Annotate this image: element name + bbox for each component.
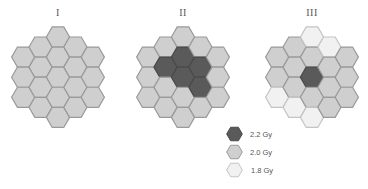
legend-swatch-icon xyxy=(227,145,243,159)
panel-ii xyxy=(137,27,230,128)
legend-swatch-icon xyxy=(227,127,243,141)
hex-cell xyxy=(81,67,104,87)
hex-cell xyxy=(206,87,229,107)
hex-cell xyxy=(335,87,358,107)
legend-label-1-8gy: 1.8 Gy xyxy=(251,166,273,175)
panel-title-iii: III xyxy=(306,7,318,18)
legend-label-2-2gy: 2.2 Gy xyxy=(250,130,272,139)
panel-title-i: I xyxy=(56,7,60,18)
hexagon-diagram xyxy=(0,0,368,189)
hex-cell xyxy=(81,87,104,107)
hex-cell xyxy=(335,47,358,67)
hex-cell xyxy=(81,47,104,67)
legend-label-2-0gy: 2.0 Gy xyxy=(250,148,272,157)
dose-distribution-figure: I II III 2.2 Gy 2.0 Gy 1.8 Gy xyxy=(0,0,368,189)
hex-cell xyxy=(335,67,358,87)
legend-swatch-icon xyxy=(227,163,243,177)
panel-iii xyxy=(266,27,359,128)
hex-cell xyxy=(206,67,229,87)
panel-title-ii: II xyxy=(179,7,187,18)
hex-cell xyxy=(206,47,229,67)
panel-i xyxy=(12,27,105,128)
